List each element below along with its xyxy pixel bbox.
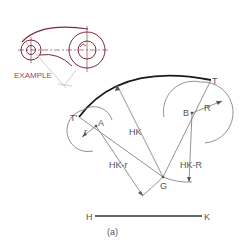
label-a: A (98, 118, 104, 128)
example-label: EXAMPLE (14, 71, 52, 80)
label-h: H (86, 212, 93, 222)
label-t: T (212, 76, 218, 86)
construction-lines (79, 80, 222, 196)
figure-caption: (a) (107, 227, 118, 237)
label-t-prime: T' (70, 113, 77, 123)
label-g: G (160, 181, 167, 191)
label-hk-minus-R: HK-R (180, 160, 202, 170)
label-hk: HK (129, 127, 142, 137)
arc-radius-R (163, 81, 233, 143)
arrowheads (82, 85, 222, 196)
tangent-arc (79, 76, 211, 117)
label-R: R (204, 103, 211, 113)
label-r: r (84, 127, 87, 137)
label-k: K (204, 212, 210, 222)
tangent-arc-construction-figure: EXAMPLE (0, 0, 241, 246)
label-b: B (183, 108, 189, 118)
label-hk-minus-r: HK-r (109, 160, 128, 170)
